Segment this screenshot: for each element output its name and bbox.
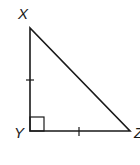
vertex-label-x: X [17,5,29,22]
vertex-label-y: Y [14,124,25,141]
right-angle-marker [30,117,44,131]
vertex-label-z: Z [133,124,140,141]
triangle-xyz [30,28,130,131]
triangle-diagram: X Y Z [0,0,140,165]
